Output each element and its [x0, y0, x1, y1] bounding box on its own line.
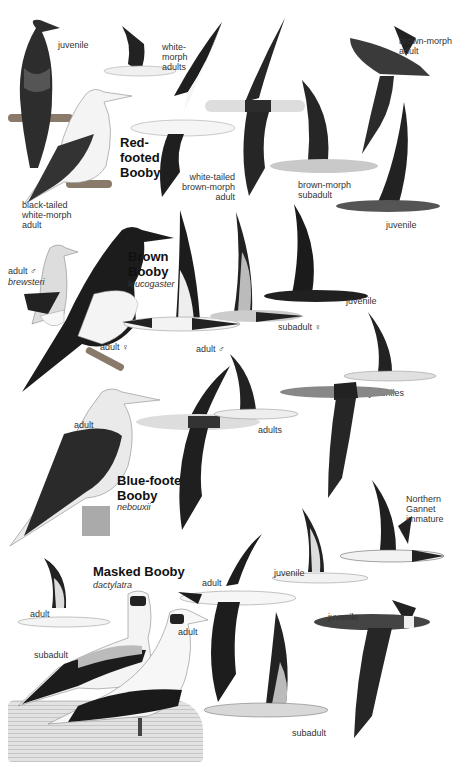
label-masked-juvenile-upper: juvenile	[274, 568, 305, 578]
label-adult-male-flying: adult ♂	[196, 344, 225, 354]
label-adult-female: adult ♀	[100, 342, 129, 352]
red-footed-juvenile-flying	[330, 102, 440, 212]
label-juvenile-upper: juvenile	[346, 296, 377, 306]
label-juvenile-flying: juvenile	[386, 220, 417, 230]
label-brown-morph-adult: brown-morph adult	[399, 36, 452, 56]
label-white-tailed-brown: white-tailed brown-morph adult	[182, 172, 235, 202]
label-subadult-female: subadult ♀	[278, 322, 321, 332]
red-footed-black-tailed-perched	[24, 86, 134, 206]
brown-booby-juvenile-small	[342, 312, 438, 382]
field-guide-plate: juvenile black-tailed white-morph adult …	[0, 0, 475, 767]
title-red-footed-booby: Red- footed Booby	[120, 135, 160, 180]
label-northern-gannet: Northern Gannet immature	[406, 494, 444, 524]
label-masked-adult-flying: adult	[202, 578, 222, 588]
brown-booby-juvenile-flying	[260, 204, 370, 304]
label-blue-footed-adult: adult	[74, 420, 94, 430]
label-juvenile: juvenile	[58, 40, 89, 50]
label-masked-juvenile-lower: juvenile	[328, 612, 359, 622]
